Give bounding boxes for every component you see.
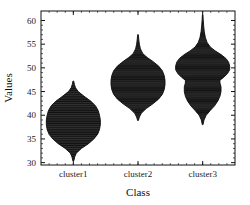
y-tick-label: 55 xyxy=(27,39,37,49)
y-tick-label: 45 xyxy=(27,87,37,97)
y-tick-label: 35 xyxy=(27,134,37,144)
y-tick-label: 40 xyxy=(27,110,37,120)
y-axis-title: Values xyxy=(2,73,14,102)
x-category-label-cluster1: cluster1 xyxy=(59,169,88,179)
x-category-label-cluster2: cluster2 xyxy=(124,169,153,179)
violin-plot-figure: 30354045505560 cluster1cluster2cluster3 … xyxy=(0,0,250,205)
x-axis-category-labels: cluster1cluster2cluster3 xyxy=(59,169,217,179)
y-tick-label: 60 xyxy=(27,16,37,26)
y-tick-label: 30 xyxy=(27,158,37,168)
y-tick-label: 50 xyxy=(27,63,37,73)
x-category-label-cluster3: cluster3 xyxy=(188,169,217,179)
chart-canvas: 30354045505560 cluster1cluster2cluster3 … xyxy=(0,0,250,205)
x-axis-title: Class xyxy=(126,186,150,198)
